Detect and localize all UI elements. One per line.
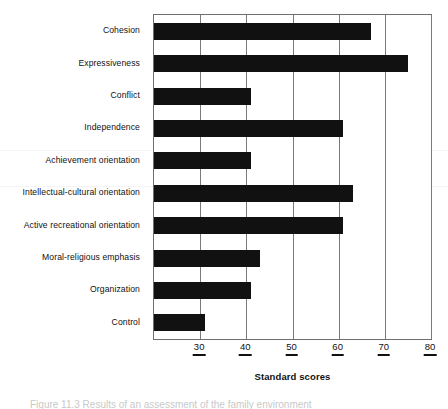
x-tick-40: 40	[239, 341, 252, 356]
category-label: Achievement orientation	[0, 155, 140, 165]
bar	[154, 250, 260, 267]
plot-area	[153, 14, 432, 340]
x-tick-rule	[378, 354, 391, 356]
x-tick-label: 80	[424, 341, 437, 353]
x-tick-rule	[424, 354, 437, 356]
bar	[154, 88, 251, 105]
bar	[154, 120, 343, 137]
x-tick-80: 80	[424, 341, 437, 356]
x-tick-60: 60	[331, 341, 344, 356]
category-label: Cohesion	[0, 25, 140, 35]
x-tick-rule	[285, 354, 298, 356]
gridline-80	[431, 15, 432, 339]
x-tick-rule	[331, 354, 344, 356]
category-label: Organization	[0, 284, 140, 294]
category-label: Moral-religious emphasis	[0, 252, 140, 262]
bar	[154, 185, 353, 202]
x-axis-title: Standard scores	[153, 371, 432, 382]
category-label: Independence	[0, 122, 140, 132]
x-tick-30: 30	[193, 341, 206, 356]
x-tick-label: 50	[285, 341, 298, 353]
bar	[154, 23, 371, 40]
bar	[154, 282, 251, 299]
bar	[154, 152, 251, 169]
bar	[154, 55, 408, 72]
category-label: Control	[0, 317, 140, 327]
x-tick-label: 40	[239, 341, 252, 353]
x-axis-ticks: 304050607080	[153, 341, 432, 367]
bar	[154, 314, 205, 331]
x-tick-rule	[193, 354, 206, 356]
category-axis-labels: CohesionExpressivenessConflictIndependen…	[0, 14, 148, 340]
x-tick-70: 70	[378, 341, 391, 356]
category-label: Intellectual-cultural orientation	[0, 187, 140, 197]
x-tick-50: 50	[285, 341, 298, 356]
figure-caption-sliver: Figure 11.3 Results of an assessment of …	[30, 399, 360, 409]
x-tick-label: 30	[193, 341, 206, 353]
bar	[154, 217, 343, 234]
category-label: Expressiveness	[0, 58, 140, 68]
category-label: Conflict	[0, 90, 140, 100]
category-label: Active recreational orientation	[0, 220, 140, 230]
x-tick-label: 60	[331, 341, 344, 353]
bar-chart-figure: CohesionExpressivenessConflictIndependen…	[0, 0, 448, 409]
x-tick-rule	[239, 354, 252, 356]
x-tick-label: 70	[378, 341, 391, 353]
